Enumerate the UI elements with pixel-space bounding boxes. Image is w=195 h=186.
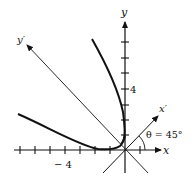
x-axis <box>14 146 161 154</box>
x-tick-label-neg4: − 4 <box>54 159 72 170</box>
y-prime-label: y′ <box>16 34 26 45</box>
x-axis-label: x <box>163 144 170 157</box>
y-tick-label-4: 4 <box>130 84 136 95</box>
angle-label: θ = 45° <box>146 129 183 140</box>
y-prime-axis <box>27 45 148 173</box>
x-prime-axis <box>103 116 158 173</box>
rotated-axes-diagram: y x y′ x′ θ = 45° − 4 4 <box>0 0 195 186</box>
y-axis-label: y <box>120 6 128 19</box>
curve-upper-branch <box>92 39 125 144</box>
x-prime-label: x′ <box>159 103 168 114</box>
